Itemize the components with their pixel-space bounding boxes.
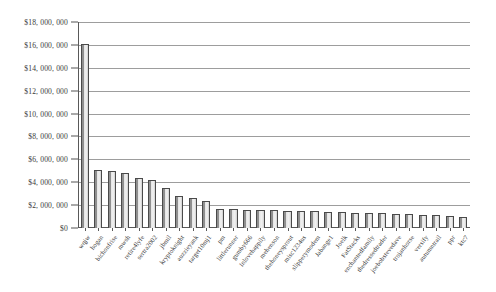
x-tick-mark [382,228,383,231]
x-tick-mark [179,228,180,231]
x-tick-mark [423,228,424,231]
x-tick-mark [193,228,194,231]
x-tick-mark [369,228,370,231]
bar [81,44,89,228]
y-tick-label: $0 [60,224,68,233]
x-tick-mark [112,228,113,231]
y-tick-mark [71,90,78,91]
x-tick-mark [166,228,167,231]
x-tick-mark [247,228,248,231]
x-tick-mark [139,228,140,231]
x-tick-mark [260,228,261,231]
x-tick-mark [274,228,275,231]
x-tick-mark [220,228,221,231]
y-tick-mark [71,228,78,229]
x-tick-mark [301,228,302,231]
x-axis-labels: wqjwhoganbichonfrisemwshretire4lyfesertr… [78,228,470,292]
y-tick-label: $12, 000, 000 [24,86,68,95]
y-tick-label: $10, 000, 000 [24,109,68,118]
y-tick-mark [71,205,78,206]
y-tick-mark [71,67,78,68]
x-tick-mark [409,228,410,231]
y-tick-label: $2, 000, 000 [28,201,68,210]
x-tick-mark [355,228,356,231]
x-tick-mark [315,228,316,231]
y-tick-label: $14, 000, 000 [24,63,68,72]
x-tick-mark [450,228,451,231]
x-tick-mark [206,228,207,231]
x-tick-mark [328,228,329,231]
y-tick-label: $6, 000, 000 [28,155,68,164]
x-tick-mark [396,228,397,231]
x-tick-mark [342,228,343,231]
y-tick-label: $16, 000, 000 [24,40,68,49]
y-tick-mark [71,159,78,160]
y-tick-mark [71,22,78,23]
x-tick-mark [233,228,234,231]
x-tick-mark [436,228,437,231]
x-tick-mark [98,228,99,231]
y-tick-label: $4, 000, 000 [28,178,68,187]
y-tick-mark [71,136,78,137]
y-axis: $18, 000, 000$16, 000, 000$14, 000, 000$… [0,22,78,228]
y-tick-label: $18, 000, 000 [24,18,68,27]
y-tick-mark [71,182,78,183]
x-tick-mark [125,228,126,231]
x-tick-label-text: ppr [445,232,457,245]
bar-chart: $18, 000, 000$16, 000, 000$14, 000, 000$… [0,0,496,292]
x-tick-mark [152,228,153,231]
x-tick-mark [288,228,289,231]
y-tick-mark [71,113,78,114]
x-tick-mark [85,228,86,231]
y-tick-mark [71,44,78,45]
x-tick-mark [463,228,464,231]
y-tick-label: $8, 000, 000 [28,132,68,141]
